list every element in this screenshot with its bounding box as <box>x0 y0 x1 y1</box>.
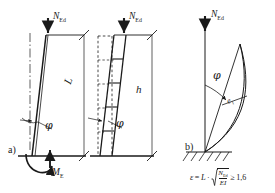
panel-a-angle-label: φ <box>45 120 53 131</box>
formula-factor-L: L <box>201 173 206 182</box>
panel-a-column-left-edge <box>32 35 46 156</box>
panel-b-hatch-6 <box>223 152 229 161</box>
panel-b-hatch-2 <box>191 152 197 161</box>
formula-radical: NEd EI <box>211 168 228 187</box>
panel-b-tag: b) <box>185 142 193 152</box>
formula-fraction: NEd EI <box>217 168 228 187</box>
formula-numerator: NEd <box>217 170 228 179</box>
panel-b-hatch-4 <box>207 152 213 161</box>
figure-canvas <box>0 0 275 193</box>
formula-dot: · <box>207 174 210 182</box>
panel-a-tag: a) <box>8 145 16 155</box>
panel-middle-group <box>88 18 157 161</box>
panel-a-angle-arrow-left <box>20 120 32 121</box>
panel-a-group <box>18 18 89 173</box>
panel-b-hatch-3 <box>199 152 205 161</box>
panel-middle-column-right-edge <box>112 35 126 156</box>
panel-b-inclined-chord <box>205 44 240 152</box>
formula-epsilon: ε <box>190 173 193 182</box>
panel-a-load-label: NEd <box>53 12 66 24</box>
panel-b-hatch-1 <box>183 152 189 161</box>
panel-b-group <box>183 16 247 161</box>
panel-b-hatch-5 <box>215 152 221 161</box>
panel-middle-load-label: NEd <box>129 12 142 24</box>
panel-b-angle-label: φ <box>213 70 221 81</box>
panel-a-moment-label: ME <box>52 168 64 180</box>
panel-middle-height-label: h <box>136 84 142 95</box>
structural-buckling-figure: NEd L φ ME a) NEd h φ NEd φ e1 b) ε = L … <box>0 0 275 193</box>
stability-criterion-formula: ε = L · NEd EI ≥ 1,6 <box>190 168 246 187</box>
panel-middle-angle-arrow-left <box>88 118 102 121</box>
formula-relation: ≥ <box>230 174 234 182</box>
panel-middle-angle-label: φ <box>116 118 124 129</box>
formula-equals: = <box>195 174 200 182</box>
formula-denominator: EI <box>219 178 228 187</box>
panel-b-load-label: NEd <box>211 10 224 22</box>
panel-a-column-right-edge <box>35 35 48 156</box>
formula-limit-value: 1,6 <box>236 174 246 182</box>
